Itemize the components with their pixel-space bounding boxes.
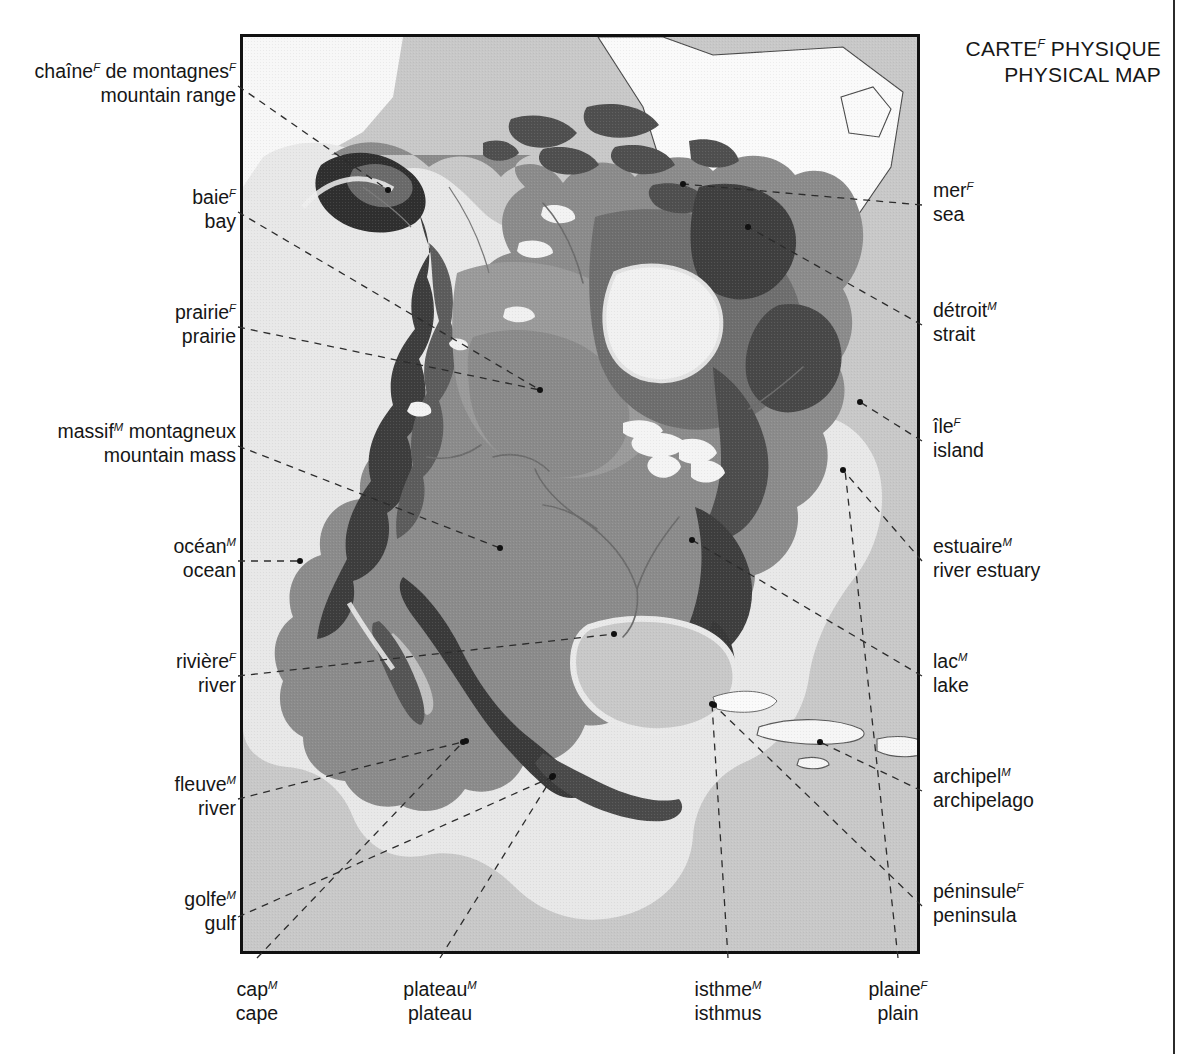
fr-word: cap <box>237 978 268 1000</box>
fr-word: île <box>933 415 954 437</box>
fr-gender: F <box>229 302 236 314</box>
title-english: PHYSICAL MAP <box>966 62 1161 88</box>
label-plateau[interactable]: plateauM plateau <box>403 978 476 1026</box>
label-cape-fr: capM <box>236 978 278 1002</box>
fr-word: péninsule <box>933 880 1016 902</box>
label-bay-fr: baieF <box>192 186 236 210</box>
fr-word: fleuve <box>175 773 227 795</box>
label-plateau-fr: plateauM <box>403 978 476 1002</box>
label-river-riviere-fr: rivièreF <box>176 650 236 674</box>
label-island-fr: îleF <box>933 415 984 439</box>
label-plain[interactable]: plaineF plain <box>869 978 928 1026</box>
label-cape-en: cape <box>236 1002 278 1026</box>
fr-gender: M <box>987 300 996 312</box>
label-bay[interactable]: baieF bay <box>192 186 236 234</box>
fr-gender: F <box>229 651 236 663</box>
label-gulf[interactable]: golfeM gulf <box>184 888 236 936</box>
label-prairie[interactable]: prairieF prairie <box>175 301 236 349</box>
label-archipelago-fr: archipelM <box>933 765 1034 789</box>
label-river-estuary[interactable]: estuaireM river estuary <box>933 535 1040 583</box>
fr-gender: M <box>958 651 967 663</box>
label-lake-fr: lacM <box>933 650 969 674</box>
fr-word: chaîne <box>35 60 94 82</box>
fr-gender: M <box>114 421 123 433</box>
label-island-en: island <box>933 439 984 463</box>
label-plateau-en: plateau <box>403 1002 476 1026</box>
label-river-riviere-en: river <box>176 674 236 698</box>
map-image <box>243 37 917 951</box>
label-plain-fr: plaineF <box>869 978 928 1002</box>
label-mountain-range-fr: chaîneF de montagnesF <box>35 60 236 84</box>
fr-gender: M <box>467 979 476 991</box>
label-isthmus[interactable]: isthmeM isthmus <box>694 978 761 1026</box>
fr-gender: M <box>227 889 236 901</box>
label-ocean-en: ocean <box>173 559 236 583</box>
label-river-fleuve[interactable]: fleuveM river <box>175 773 236 821</box>
fr-word: archipel <box>933 765 1001 787</box>
fr-gender: F <box>229 187 236 199</box>
fr-word: massif <box>57 420 113 442</box>
fr-word: golfe <box>184 888 226 910</box>
fr-gender: M <box>1001 766 1010 778</box>
label-gulf-en: gulf <box>184 912 236 936</box>
label-river-riviere[interactable]: rivièreF river <box>176 650 236 698</box>
fr-word: plateau <box>403 978 467 1000</box>
label-strait[interactable]: détroitM strait <box>933 299 997 347</box>
fr-word: rivière <box>176 650 229 672</box>
fr-gender: F <box>921 979 928 991</box>
fr-gender: F <box>1016 881 1023 893</box>
label-island[interactable]: îleF island <box>933 415 984 463</box>
fr-word: détroit <box>933 299 987 321</box>
fr-word: baie <box>192 186 229 208</box>
label-mountain-mass-fr: massifM montagneux <box>57 420 236 444</box>
label-river-estuary-fr: estuaireM <box>933 535 1040 559</box>
label-lake-en: lake <box>933 674 969 698</box>
fr-rest: de montagnes <box>100 60 229 82</box>
label-lake[interactable]: lacM lake <box>933 650 969 698</box>
label-mountain-range-en: mountain range <box>35 84 236 108</box>
label-gulf-fr: golfeM <box>184 888 236 912</box>
label-river-fleuve-fr: fleuveM <box>175 773 236 797</box>
fr-word: océan <box>173 535 226 557</box>
fr-gender: M <box>227 536 236 548</box>
title-french-rest: PHYSIQUE <box>1045 37 1161 60</box>
fr-gender: M <box>268 979 277 991</box>
fr-word: mer <box>933 179 967 201</box>
fr-rest-gender: F <box>229 61 236 73</box>
label-archipelago-en: archipelago <box>933 789 1034 813</box>
label-ocean[interactable]: océanM ocean <box>173 535 236 583</box>
title-french-word: CARTE <box>966 37 1038 60</box>
physical-map-page: CARTEF PHYSIQUE PHYSICAL MAP <box>0 0 1183 1054</box>
fr-gender: M <box>1002 536 1011 548</box>
fr-gender: M <box>227 774 236 786</box>
label-mountain-mass[interactable]: massifM montagneux mountain mass <box>57 420 236 468</box>
label-mountain-mass-en: mountain mass <box>57 444 236 468</box>
label-isthmus-en: isthmus <box>694 1002 761 1026</box>
label-bay-en: bay <box>192 210 236 234</box>
label-prairie-en: prairie <box>175 325 236 349</box>
fr-word: estuaire <box>933 535 1002 557</box>
label-river-fleuve-en: river <box>175 797 236 821</box>
label-strait-fr: détroitM <box>933 299 997 323</box>
map-frame <box>240 34 920 954</box>
label-mountain-range[interactable]: chaîneF de montagnesF mountain range <box>35 60 236 108</box>
label-cape[interactable]: capM cape <box>236 978 278 1026</box>
label-isthmus-fr: isthmeM <box>694 978 761 1002</box>
label-peninsula[interactable]: péninsuleF peninsula <box>933 880 1023 928</box>
label-archipelago[interactable]: archipelM archipelago <box>933 765 1034 813</box>
map-relief-svg <box>243 37 917 951</box>
label-strait-en: strait <box>933 323 997 347</box>
label-sea-fr: merF <box>933 179 974 203</box>
label-sea[interactable]: merF sea <box>933 179 974 227</box>
fr-word: lac <box>933 650 958 672</box>
fr-word: plaine <box>869 978 921 1000</box>
fr-gender: M <box>752 979 761 991</box>
label-plain-en: plain <box>869 1002 928 1026</box>
label-ocean-fr: océanM <box>173 535 236 559</box>
fr-word: prairie <box>175 301 229 323</box>
title-french: CARTEF PHYSIQUE <box>966 36 1161 62</box>
title-french-gender: F <box>1037 37 1044 51</box>
fr-gender: F <box>954 416 961 428</box>
label-prairie-fr: prairieF <box>175 301 236 325</box>
page-title: CARTEF PHYSIQUE PHYSICAL MAP <box>966 36 1161 88</box>
